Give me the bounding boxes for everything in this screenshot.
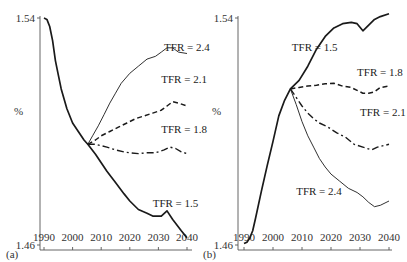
panel-b-y-tick-label-top: 1.54 — [214, 12, 234, 24]
panel-b-x-ticks: 199020002010202020302040 — [233, 231, 401, 250]
panel-b-series-label: TFR = 2.4 — [296, 185, 342, 197]
panel-a-line-18 — [88, 144, 187, 153]
panel-a-x-tick-label: 2000 — [62, 231, 85, 243]
panel-b-x-tick-label: 2020 — [320, 231, 343, 243]
panel-a-series-label: TFR = 1.5 — [153, 197, 199, 209]
panel-a-series: TFR = 1.5TFR = 1.8TFR = 2.1TFR = 2.4 — [44, 18, 210, 238]
panel-a-y-axis-label: % — [14, 105, 23, 117]
panel-b: 1.54 1.46 % 199020002010202020302040 TFR… — [212, 12, 406, 251]
panel-a-series-label: TFR = 2.1 — [161, 73, 207, 85]
panel-a-x-tick-label: 1990 — [33, 231, 56, 243]
panel-b-x-tick-label: 2010 — [291, 231, 314, 243]
panel-a-y-tick-label-top: 1.54 — [16, 12, 36, 24]
chart-figure: 1.54 1.46 % 199020002010202020302040 TFR… — [0, 0, 407, 262]
panel-b-line-21 — [290, 89, 389, 150]
panel-b-series: TFR = 1.5TFR = 1.8TFR = 2.1TFR = 2.4 — [244, 14, 406, 244]
panel-b-x-tick-label: 2030 — [349, 231, 372, 243]
panel-b-x-tick-label: 2000 — [262, 231, 285, 243]
panel-a-x-ticks: 199020002010202020302040 — [33, 231, 199, 250]
panel-a-series-label: TFR = 1.8 — [161, 123, 207, 135]
panel-a-x-tick-label: 2010 — [90, 231, 113, 243]
panel-b-y-axis-label: % — [212, 105, 221, 117]
panel-a: 1.54 1.46 % 199020002010202020302040 TFR… — [14, 12, 210, 251]
panel-a-x-tick-label: 2030 — [147, 231, 170, 243]
panel-b-x-tick-label: 2040 — [378, 231, 401, 243]
panel-a-x-tick-label: 2020 — [119, 231, 142, 243]
panel-a-series-label: TFR = 2.4 — [164, 41, 210, 53]
panel-b-y-tick-label-bottom: 1.46 — [214, 239, 234, 251]
panel-b-series-label: TFR = 1.5 — [292, 41, 338, 53]
panel-b-series-label: TFR = 2.1 — [360, 106, 406, 118]
panel-b-line-18 — [290, 83, 389, 93]
panel-b-series-label: TFR = 1.8 — [357, 66, 403, 78]
